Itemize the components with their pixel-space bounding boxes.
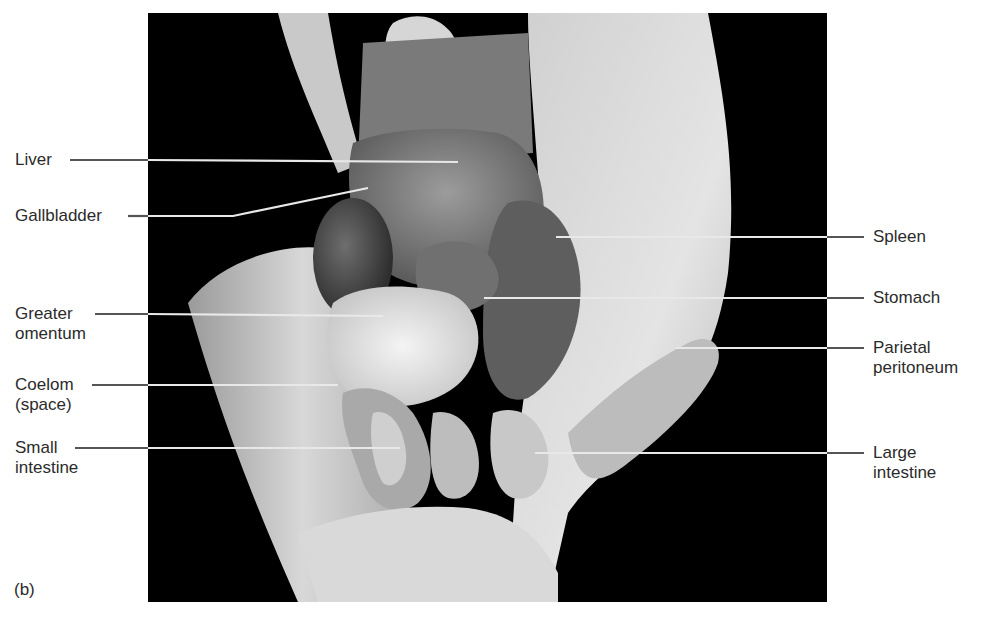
label-liver: Liver [15, 150, 52, 170]
specimen-photo [148, 13, 827, 602]
label-stomach: Stomach [873, 288, 940, 308]
label-gallbladder: Gallbladder [15, 206, 102, 226]
label-small-intestine: Small intestine [15, 438, 78, 478]
label-coelom: Coelom (space) [15, 375, 74, 415]
label-spleen: Spleen [873, 227, 926, 247]
specimen-illustration [148, 13, 827, 602]
panel-letter: (b) [14, 580, 35, 600]
label-greater-omentum: Greater omentum [15, 304, 86, 344]
label-large-intestine: Large intestine [873, 443, 936, 483]
label-parietal-peritoneum: Parietal peritoneum [873, 338, 958, 378]
